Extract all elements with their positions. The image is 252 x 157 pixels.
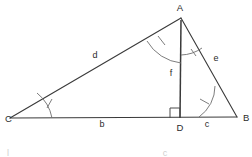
vertex-label-a: A [177, 2, 184, 13]
segment-base-cb-line [10, 117, 237, 118]
side-label-c: c [205, 119, 210, 129]
segment-f-altitude-line [180, 20, 181, 118]
segment-d-line [10, 18, 181, 118]
segment-e-line [181, 18, 237, 117]
right-angle-marker-d [170, 108, 180, 118]
vertex-label-b: B [243, 112, 249, 123]
angle-tick-c [47, 99, 52, 108]
triangle-figure: A B C D d e b c f l c [0, 0, 252, 157]
vertex-label-c: C [5, 113, 12, 124]
side-label-f: f [170, 68, 173, 78]
side-label-b: b [99, 119, 104, 129]
vertex-label-d: D [177, 122, 184, 133]
angle-arc-b [199, 86, 215, 117]
side-label-e: e [213, 53, 218, 63]
angle-tick-cad [158, 36, 165, 45]
angle-tick-dab [191, 49, 196, 56]
ghost-text-left: l [7, 148, 9, 157]
ghost-text-right: c [163, 148, 168, 157]
side-label-d: d [92, 50, 97, 60]
diagram-canvas: A B C D d e b c f l c [0, 0, 252, 157]
angle-tick-b [200, 99, 209, 104]
angle-arc-c [37, 93, 52, 118]
